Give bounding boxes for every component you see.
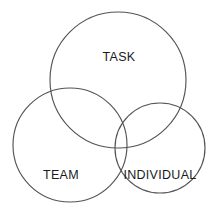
label-task: TASK xyxy=(103,50,136,64)
venn-diagram: TASK TEAM INDIVIDUAL xyxy=(0,0,212,217)
circle-team xyxy=(13,88,127,202)
label-team: TEAM xyxy=(43,168,79,182)
label-individual: INDIVIDUAL xyxy=(123,168,196,182)
circle-task xyxy=(50,12,186,148)
venn-diagram-canvas: TASK TEAM INDIVIDUAL xyxy=(0,0,212,217)
